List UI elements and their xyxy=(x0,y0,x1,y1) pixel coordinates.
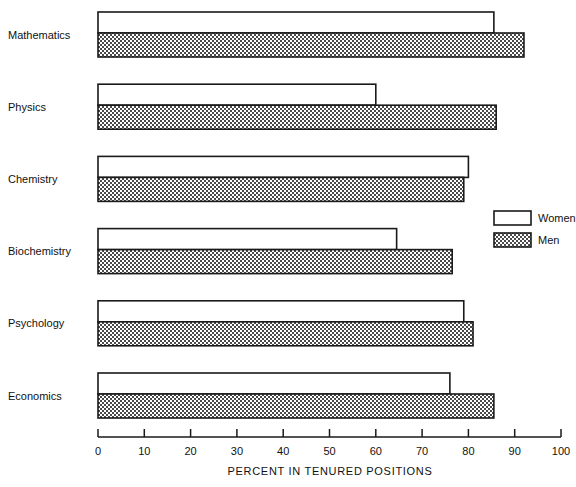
axis-tick-label: 90 xyxy=(509,445,521,457)
bar-group xyxy=(98,301,473,346)
bar-men xyxy=(98,394,494,418)
category-label: Mathematics xyxy=(8,29,71,41)
category-label: Chemistry xyxy=(8,173,58,185)
axis-tick-label: 40 xyxy=(277,445,289,457)
category-label: Physics xyxy=(8,101,46,113)
bar-men xyxy=(98,250,452,274)
axis-tick-label: 20 xyxy=(184,445,196,457)
bar-women xyxy=(98,84,376,105)
legend-swatch-men xyxy=(494,233,531,247)
bar-men xyxy=(98,33,524,57)
x-axis-title: PERCENT IN TENURED POSITIONS xyxy=(228,465,433,477)
bar-group xyxy=(98,156,468,201)
bar-men xyxy=(98,322,473,346)
bar-women xyxy=(98,373,450,394)
legend-swatch-women xyxy=(494,211,531,225)
category-label: Economics xyxy=(8,390,62,402)
legend-label-men: Men xyxy=(538,234,559,246)
bar-group xyxy=(98,373,494,418)
bar-women xyxy=(98,229,397,250)
bar-women xyxy=(98,12,494,33)
chart-svg: MathematicsPhysicsChemistryBiochemistryP… xyxy=(0,0,576,487)
axis-tick-label: 10 xyxy=(138,445,150,457)
bar-women xyxy=(98,301,464,322)
axis-tick-label: 80 xyxy=(462,445,474,457)
legend-label-women: Women xyxy=(538,212,576,224)
axis-tick-label: 70 xyxy=(416,445,428,457)
bar-women xyxy=(98,156,468,177)
bar-men xyxy=(98,105,496,129)
axis-tick-label: 0 xyxy=(95,445,101,457)
category-label: Psychology xyxy=(8,317,65,329)
category-label: Biochemistry xyxy=(8,245,71,257)
bar-group xyxy=(98,12,524,57)
axis-tick-label: 100 xyxy=(552,445,570,457)
axis-tick-label: 50 xyxy=(323,445,335,457)
axis-tick-label: 60 xyxy=(370,445,382,457)
tenure-percent-bar-chart: MathematicsPhysicsChemistryBiochemistryP… xyxy=(0,0,576,487)
bar-men xyxy=(98,177,464,201)
axis-tick-label: 30 xyxy=(231,445,243,457)
